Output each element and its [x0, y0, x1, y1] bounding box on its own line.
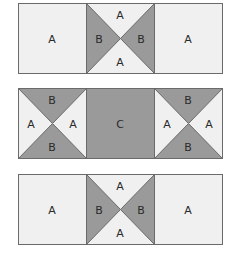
label-a: A — [48, 33, 56, 46]
label-a: A — [48, 204, 56, 217]
block-3-2: A A B B — [87, 175, 155, 245]
block-3-3: A — [155, 175, 223, 245]
label-bottom: A — [116, 56, 124, 69]
label-top: B — [48, 94, 56, 107]
label-bottom: B — [184, 141, 192, 154]
label-left: A — [27, 118, 35, 131]
label-top: A — [116, 180, 124, 193]
label-right: B — [137, 33, 145, 46]
block-1-2: A A B B — [87, 4, 155, 74]
label-a: A — [184, 33, 192, 46]
block-2-2: C — [87, 89, 155, 159]
label-bottom: A — [116, 227, 124, 240]
block-2-3: B B A A — [155, 89, 223, 159]
quilt-row-1: A A A B B A — [18, 3, 223, 74]
label-right: A — [69, 118, 77, 131]
block-3-1: A — [19, 175, 87, 245]
label-a: A — [184, 204, 192, 217]
block-1-3: A — [155, 4, 223, 74]
label-top: A — [116, 9, 124, 22]
label-left: B — [95, 204, 103, 217]
label-right: A — [205, 118, 213, 131]
quilt-row-3: A A A B B A — [18, 174, 223, 245]
label-bottom: B — [48, 141, 56, 154]
label-left: A — [163, 118, 171, 131]
label-top: B — [184, 94, 192, 107]
label-right: B — [137, 204, 145, 217]
label-left: B — [95, 33, 103, 46]
block-1-1: A — [19, 4, 87, 74]
label-c: C — [116, 118, 124, 131]
block-2-1: B B A A — [19, 89, 87, 159]
quilt-row-2: B B A A C B B A A — [18, 88, 223, 159]
